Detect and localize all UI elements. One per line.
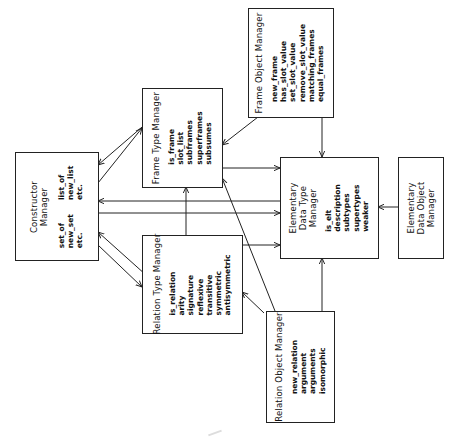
frame-type-manager-ops: is_frame slot_list subframes superframes… bbox=[167, 111, 213, 164]
constructor-manager-title: Constructor Manager bbox=[29, 152, 49, 261]
elementary-data-type-manager-title: Elementary Data Type Manager bbox=[288, 157, 318, 259]
frame-type-manager-box: Frame Type Manager is_frame slot_list su… bbox=[142, 88, 223, 188]
edge-frameobject-to-frametype bbox=[222, 117, 258, 145]
edge-constructor-to-frametype bbox=[98, 128, 142, 183]
elementary-data-object-manager-box: Elementary Data Object Manager bbox=[398, 157, 444, 259]
frame-object-manager-ops: new_frame has_slot_value set_slot_value … bbox=[270, 24, 325, 102]
relation-object-manager-title: Relation Object Manager bbox=[273, 311, 283, 423]
relation-object-manager-ops: new_relation argument arguments isomorph… bbox=[289, 340, 326, 394]
frame-type-manager-title: Frame Type Manager bbox=[151, 88, 161, 188]
relation-type-manager-title: Relation Type Manager bbox=[151, 235, 161, 334]
edge-relationobject-to-relationtype bbox=[242, 292, 264, 313]
relation-object-manager-box: Relation Object Manager new_relation arg… bbox=[266, 311, 335, 423]
elementary-data-type-manager-box: Elementary Data Type Manager is_elt desc… bbox=[280, 157, 379, 259]
relation-type-manager-box: Relation Type Manager is_relation arity … bbox=[142, 235, 243, 334]
frame-object-manager-title: Frame Object Manager bbox=[254, 8, 264, 118]
constructor-manager-ops: set_of new_set etc. list_of new_list etc… bbox=[57, 152, 85, 261]
relation-type-manager-ops: is_relation arity signature reflexive tr… bbox=[167, 254, 231, 315]
elementary-data-object-manager-title: Elementary Data Object Manager bbox=[406, 157, 436, 259]
constructor-manager-box: Constructor Manager set_of new_set etc. … bbox=[15, 152, 99, 261]
frame-object-manager-box: Frame Object Manager new_frame has_slot_… bbox=[248, 8, 334, 118]
elementary-data-type-manager-ops: is_elt description subtypes supertypes w… bbox=[324, 184, 370, 232]
